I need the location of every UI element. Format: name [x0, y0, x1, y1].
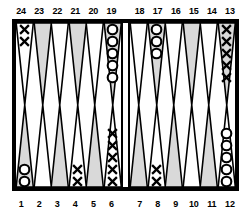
- point-triangle-11: [200, 105, 218, 187]
- point-triangle-4: [69, 105, 87, 187]
- point-label-6: 6: [102, 197, 120, 211]
- bottom-left-label-group: 123456: [12, 197, 121, 211]
- point-2[interactable]: [34, 105, 52, 187]
- point-triangle-15: [183, 23, 201, 105]
- point-triangle-23: [34, 23, 52, 105]
- point-triangle-5: [86, 105, 104, 187]
- board-inner: [16, 23, 235, 187]
- point-10[interactable]: [183, 105, 201, 187]
- bottom-point-labels: 123456 789101112: [12, 197, 239, 211]
- point-16[interactable]: [165, 23, 183, 105]
- point-12[interactable]: [218, 105, 236, 187]
- point-triangle-7: [130, 105, 148, 187]
- point-17[interactable]: [148, 23, 166, 105]
- quadrant-top-left: [16, 23, 121, 105]
- board-half-right: [128, 23, 235, 187]
- point-label-9: 9: [167, 197, 185, 211]
- point-label-21: 21: [66, 4, 84, 18]
- quadrant-top-right: [130, 23, 235, 105]
- point-label-14: 14: [203, 4, 221, 18]
- point-5[interactable]: [86, 105, 104, 187]
- point-3[interactable]: [51, 105, 69, 187]
- top-right-label-group: 181716151413: [131, 4, 240, 18]
- point-label-22: 22: [48, 4, 66, 18]
- point-triangle-9: [165, 105, 183, 187]
- point-triangle-22: [51, 23, 69, 105]
- point-triangle-1: [16, 105, 34, 187]
- board-half-left: [16, 23, 123, 187]
- point-label-5: 5: [84, 197, 102, 211]
- point-triangle-18: [130, 23, 148, 105]
- point-label-13: 13: [221, 4, 239, 18]
- point-21[interactable]: [69, 23, 87, 105]
- point-label-19: 19: [102, 4, 120, 18]
- point-triangle-2: [34, 105, 52, 187]
- point-4[interactable]: [69, 105, 87, 187]
- point-label-20: 20: [84, 4, 102, 18]
- point-13[interactable]: [218, 23, 236, 105]
- point-triangle-24: [16, 23, 34, 105]
- point-18[interactable]: [130, 23, 148, 105]
- point-24[interactable]: [16, 23, 34, 105]
- point-triangle-13: [218, 23, 236, 105]
- point-label-17: 17: [149, 4, 167, 18]
- top-left-label-group: 242322212019: [12, 4, 121, 18]
- point-23[interactable]: [34, 23, 52, 105]
- point-label-8: 8: [149, 197, 167, 211]
- point-label-4: 4: [66, 197, 84, 211]
- point-8[interactable]: [148, 105, 166, 187]
- point-label-10: 10: [185, 197, 203, 211]
- point-triangle-17: [148, 23, 166, 105]
- point-triangle-12: [218, 105, 236, 187]
- point-triangle-6: [104, 105, 122, 187]
- quadrant-bottom-right: [130, 105, 235, 187]
- point-label-2: 2: [30, 197, 48, 211]
- point-triangle-20: [86, 23, 104, 105]
- top-point-labels: 242322212019 181716151413: [12, 4, 239, 18]
- point-label-12: 12: [221, 197, 239, 211]
- point-triangle-3: [51, 105, 69, 187]
- point-7[interactable]: [130, 105, 148, 187]
- point-triangle-16: [165, 23, 183, 105]
- point-label-18: 18: [131, 4, 149, 18]
- point-11[interactable]: [200, 105, 218, 187]
- point-triangle-10: [183, 105, 201, 187]
- point-6[interactable]: [104, 105, 122, 187]
- point-label-15: 15: [185, 4, 203, 18]
- point-label-16: 16: [167, 4, 185, 18]
- quadrant-bottom-left: [16, 105, 121, 187]
- point-label-3: 3: [48, 197, 66, 211]
- point-14[interactable]: [200, 23, 218, 105]
- point-22[interactable]: [51, 23, 69, 105]
- point-triangle-14: [200, 23, 218, 105]
- board-frame: [12, 19, 239, 191]
- point-label-23: 23: [30, 4, 48, 18]
- point-15[interactable]: [183, 23, 201, 105]
- point-19[interactable]: [104, 23, 122, 105]
- point-triangle-21: [69, 23, 87, 105]
- point-triangle-8: [148, 105, 166, 187]
- point-20[interactable]: [86, 23, 104, 105]
- point-label-1: 1: [12, 197, 30, 211]
- point-1[interactable]: [16, 105, 34, 187]
- point-label-11: 11: [203, 197, 221, 211]
- point-label-24: 24: [12, 4, 30, 18]
- point-triangle-19: [104, 23, 122, 105]
- backgammon-board: 242322212019 181716151413 123456 7891011…: [0, 0, 251, 213]
- bottom-right-label-group: 789101112: [131, 197, 240, 211]
- point-label-7: 7: [131, 197, 149, 211]
- point-9[interactable]: [165, 105, 183, 187]
